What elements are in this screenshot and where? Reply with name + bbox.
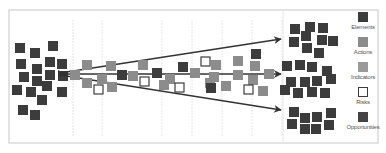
legend-item-opportunities: Opportunities	[341, 112, 385, 137]
element-square	[251, 49, 261, 59]
element-square	[289, 37, 299, 47]
element-square	[289, 107, 299, 117]
element-square	[45, 70, 55, 80]
action-square	[128, 71, 138, 81]
element-square	[19, 72, 29, 82]
element-square	[30, 48, 40, 58]
element-square	[45, 57, 55, 67]
action-square	[233, 70, 243, 80]
element-square	[16, 59, 26, 69]
element-square	[311, 124, 321, 134]
element-square	[37, 95, 47, 105]
element-square	[42, 81, 52, 91]
risk-square	[140, 77, 149, 86]
element-square	[18, 105, 28, 115]
element-square	[30, 110, 40, 120]
element-square	[317, 35, 327, 45]
action-swatch-icon	[358, 37, 368, 47]
element-square	[324, 120, 334, 130]
action-square	[190, 68, 200, 78]
legend-label: Risks	[356, 99, 370, 105]
action-square	[138, 60, 148, 70]
action-square	[82, 78, 92, 88]
legend-label: Opportunities	[346, 124, 379, 130]
element-square	[300, 77, 310, 87]
indicator-swatch-icon	[358, 62, 368, 72]
element-square	[26, 87, 36, 97]
element-square	[32, 76, 42, 86]
element-square	[328, 36, 338, 46]
element-square	[314, 48, 324, 58]
action-square	[82, 60, 92, 70]
arrow-upper	[60, 39, 281, 73]
legend-label: Elements	[351, 24, 374, 30]
element-square	[32, 64, 42, 74]
legend-item-indicators: Indicators	[341, 62, 385, 87]
risk-square	[244, 85, 253, 94]
element-square	[287, 119, 297, 129]
element-square	[302, 43, 312, 53]
element-square	[152, 68, 162, 78]
right-top-cluster	[289, 22, 338, 58]
element-swatch-icon	[358, 12, 368, 22]
action-square	[248, 75, 258, 85]
risk-square	[201, 57, 210, 66]
action-square	[221, 81, 231, 91]
element-square	[178, 62, 188, 72]
action-square	[106, 61, 116, 71]
funnel-diagram	[0, 0, 386, 153]
action-square	[233, 56, 243, 66]
element-square	[305, 22, 315, 32]
element-square	[326, 108, 336, 118]
action-square	[258, 86, 268, 96]
element-square	[15, 43, 25, 53]
opportunity-swatch-icon	[358, 112, 368, 122]
risk-swatch-icon	[358, 87, 368, 97]
action-square	[211, 60, 221, 70]
element-square	[300, 124, 310, 134]
element-square	[57, 87, 67, 97]
element-square	[117, 70, 127, 80]
left-element-cluster	[12, 41, 68, 120]
action-square	[97, 74, 107, 84]
element-square	[307, 62, 317, 72]
legend-label: Indicators	[351, 74, 375, 80]
action-square	[70, 70, 80, 80]
element-square	[312, 112, 322, 122]
element-square	[290, 24, 300, 34]
right-middle-cluster	[280, 60, 336, 98]
element-square	[295, 60, 305, 70]
element-square	[320, 88, 330, 98]
element-square	[12, 85, 22, 95]
right-bottom-cluster	[287, 107, 336, 134]
legend-item-elements: Elements	[341, 12, 385, 37]
legend: Elements Actions Indicators Risks Opport…	[341, 12, 385, 137]
action-square	[107, 82, 117, 92]
action-square	[264, 69, 274, 79]
element-square	[280, 85, 290, 95]
element-square	[48, 41, 58, 51]
legend-item-risks: Risks	[341, 87, 385, 112]
element-square	[301, 31, 311, 41]
element-square	[307, 87, 317, 97]
element-square	[312, 76, 322, 86]
element-square	[318, 23, 328, 33]
action-square	[159, 80, 169, 90]
risk-square	[94, 85, 103, 94]
element-square	[293, 88, 303, 98]
legend-label: Actions	[354, 49, 372, 55]
element-square	[300, 113, 310, 123]
element-square	[326, 74, 336, 84]
element-square	[282, 61, 292, 71]
element-square	[57, 59, 67, 69]
element-square	[206, 83, 216, 93]
action-square	[250, 61, 260, 71]
risk-square	[175, 83, 184, 92]
legend-item-actions: Actions	[341, 37, 385, 62]
